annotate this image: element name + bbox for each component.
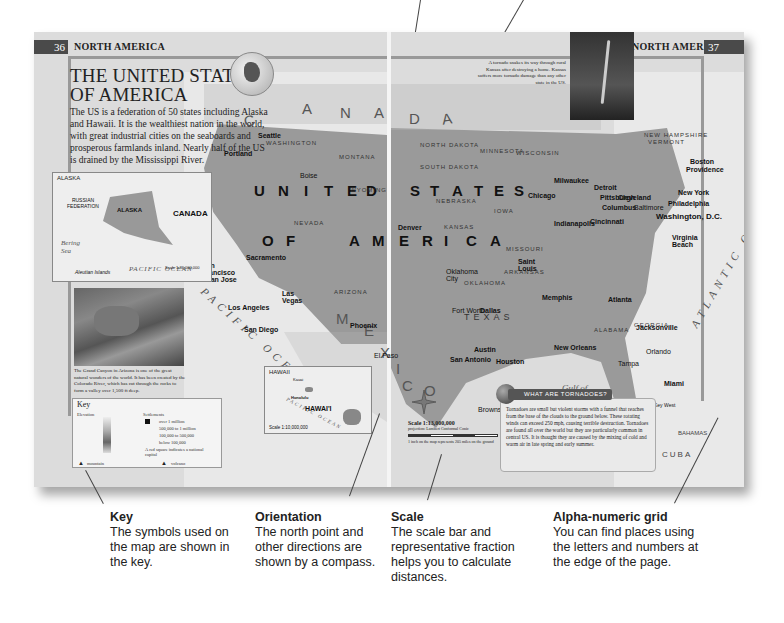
locator-globe-landmass bbox=[244, 62, 260, 82]
annotation-grid-title: Alpha-numeric grid bbox=[553, 510, 713, 525]
volcano-label: volcano bbox=[171, 461, 185, 466]
grand-canyon-caption: The Grand Canyon in Arizona is one of th… bbox=[74, 368, 186, 394]
alaska-label-canada: CANADA bbox=[173, 209, 208, 218]
united-letter: I bbox=[304, 182, 309, 199]
map-key: Key Elevation Settlements over 1 million… bbox=[72, 398, 222, 468]
united-letter: N bbox=[278, 182, 290, 199]
city-label-cincinnati: Cincinnati bbox=[590, 218, 624, 225]
locator-globe bbox=[230, 52, 274, 96]
america-letter: F bbox=[286, 232, 296, 249]
city-label-san-diego: San Diego bbox=[244, 326, 278, 333]
bahamas-label: BAHAMAS bbox=[678, 430, 707, 436]
city-label-portland: Portland bbox=[224, 150, 252, 157]
annotation-grid: Alpha-numeric grid You can find places u… bbox=[553, 510, 713, 570]
city-label-san-antonio: San Antonio bbox=[450, 356, 491, 363]
hawaii-inset: HAWAII Kauai Honolulu HAWAI'I PACIFIC OC… bbox=[264, 366, 372, 434]
city-label-philadelphia: Philadelphia bbox=[668, 200, 709, 207]
state-label: SOUTH DAKOTA bbox=[420, 164, 479, 170]
annotation-scale-text: The scale bar and representative fractio… bbox=[391, 525, 515, 584]
alaska-inset-title: ALASKA bbox=[57, 175, 80, 181]
state-label: WISCONSIN bbox=[516, 150, 560, 156]
states-letter: E bbox=[494, 182, 505, 199]
america-letter: E bbox=[399, 232, 410, 249]
alaska-label-aleutian: Aleutian Islands bbox=[75, 269, 110, 275]
city-label-new-orleans: New Orleans bbox=[554, 344, 596, 351]
state-label: ALABAMA bbox=[594, 327, 629, 333]
city-label-key-west: Key West bbox=[654, 402, 675, 408]
america-letter: O bbox=[262, 232, 275, 249]
state-label: ARIZONA bbox=[334, 289, 368, 295]
settlement-4: below 100,000 bbox=[159, 440, 186, 445]
grand-canyon-photo bbox=[74, 288, 184, 366]
scale-bar bbox=[408, 434, 498, 437]
alaska-label-russia: RUSSIAN FEDERATION bbox=[63, 197, 103, 209]
tornadoes-text: Tornadoes are small but violent storms w… bbox=[506, 406, 652, 448]
city-label-pittsburgh: Pittsburgh bbox=[600, 194, 635, 201]
annotation-orientation: Orientation The north point and other di… bbox=[255, 510, 385, 570]
city-label-austin: Austin bbox=[474, 346, 496, 353]
america-letter: R bbox=[422, 232, 434, 249]
united-letter: T bbox=[324, 182, 334, 199]
city-label-los-angeles: Los Angeles bbox=[228, 304, 269, 311]
alpha-grid-top-left bbox=[70, 56, 387, 59]
settlement-1: over 1 million bbox=[159, 419, 185, 424]
canada-letter: A bbox=[302, 100, 312, 117]
cuba-label: CUBA bbox=[662, 450, 692, 459]
city-label-memphis: Memphis bbox=[542, 294, 572, 301]
atlas-spread: 36 NORTH AMERICA NORTH AMERICA 37 THE UN… bbox=[34, 32, 744, 487]
annotation-grid-text: You can find places using the letters an… bbox=[553, 525, 698, 569]
state-label: WASHINGTON bbox=[266, 140, 317, 146]
settlements-label: Settlements bbox=[143, 412, 164, 417]
mexico-letter: I bbox=[396, 360, 400, 377]
hawaii-label-kauai: Kauai bbox=[293, 377, 303, 382]
elevation-bar bbox=[103, 417, 111, 453]
page-gutter bbox=[387, 32, 391, 487]
key-title: Key bbox=[77, 400, 90, 409]
city-label-oklahoma-city: Oklahoma City bbox=[446, 268, 474, 282]
city-label-el-paso: El Paso bbox=[374, 352, 398, 359]
city-label-boston: Boston bbox=[690, 158, 714, 165]
tornado-caption: A tornado snakes its way through rural K… bbox=[474, 60, 566, 86]
state-label: IOWA bbox=[494, 208, 514, 214]
tornado-photo bbox=[570, 32, 634, 120]
mexico-letter: M bbox=[336, 310, 349, 327]
city-label-baltimore: Baltimore bbox=[634, 204, 664, 211]
city-label-detroit: Detroit bbox=[594, 184, 617, 191]
states-letter: A bbox=[452, 182, 464, 199]
elevation-label: Elevation bbox=[77, 412, 94, 417]
city-label-providence: Providence bbox=[686, 166, 724, 173]
states-letter: T bbox=[474, 182, 484, 199]
canada-letter: D bbox=[409, 110, 420, 127]
alaska-scale: Scale 1:36,000,000 bbox=[165, 265, 199, 270]
city-label-columbus: Columbus bbox=[602, 204, 636, 211]
city-label-las-vegas: Las Vegas bbox=[282, 290, 302, 304]
alaska-land bbox=[103, 191, 173, 251]
alaska-label-bering: Bering Sea bbox=[61, 239, 91, 255]
hawaii-oahu bbox=[305, 387, 313, 392]
america-letter: I bbox=[444, 232, 449, 249]
state-label: WYOMING bbox=[350, 187, 387, 193]
city-label-virginia-beach: Virginia Beach bbox=[672, 234, 702, 248]
states-letter: S bbox=[514, 182, 525, 199]
city-label-jacksonville: Jacksonville bbox=[636, 324, 678, 331]
capital-square-icon bbox=[145, 419, 150, 424]
city-label-new-york: New York bbox=[678, 189, 709, 196]
annotation-key-title: Key bbox=[110, 510, 240, 525]
city-label-tampa: Tampa bbox=[618, 360, 639, 367]
intro-text: The US is a federation of 50 states incl… bbox=[70, 106, 270, 166]
city-label-orlando: Orlando bbox=[646, 348, 671, 355]
city-label-boise: Boise bbox=[300, 172, 318, 179]
united-letter: U bbox=[254, 182, 266, 199]
state-label: MONTANA bbox=[339, 154, 376, 160]
mountain-label: mountain bbox=[87, 461, 104, 466]
canada-letter: A bbox=[441, 109, 453, 127]
volcano-icon: ▲ bbox=[161, 460, 167, 466]
annotation-key-text: The symbols used on the map are shown in… bbox=[110, 525, 230, 569]
alaska-label-alaska: ALASKA bbox=[117, 207, 142, 213]
america-letter: M bbox=[372, 232, 386, 249]
annotation-orientation-text: The north point and other directions are… bbox=[255, 525, 375, 569]
state-label: NEBRASKA bbox=[436, 198, 477, 204]
state-label: NEW HAMPSHIRE bbox=[644, 132, 708, 138]
running-head-left: NORTH AMERICA bbox=[74, 41, 165, 52]
settlement-3: 100,000 to 500,000 bbox=[159, 433, 194, 438]
